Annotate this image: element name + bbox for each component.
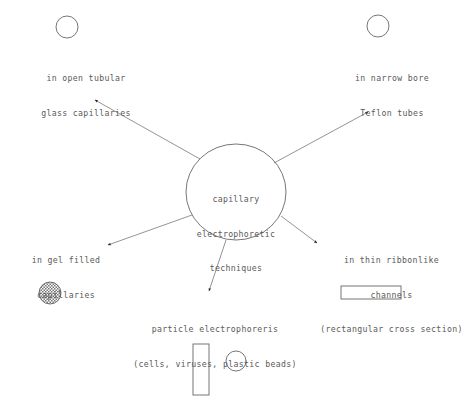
branch-label-open-tubular-line-2: glass capillaries [16, 108, 156, 120]
diagram-canvas: capillary electrophoretic techniques in … [0, 0, 465, 413]
branch-label-narrow-bore: in narrow bore Teflon tubes [324, 50, 460, 142]
branch-label-open-tubular-line-1: in open tubular [16, 73, 156, 85]
branch-label-ribbonlike-line-1: in thin ribbonlike [318, 255, 465, 267]
shape-open-circle-top-left [56, 16, 78, 38]
branch-label-ribbonlike-line-3: (rectangular cross section) [318, 324, 465, 336]
branch-label-particle-line-1: particle electrophoreris [118, 324, 312, 336]
branch-label-ribbonlike: in thin ribbonlike channels (rectangular… [318, 232, 465, 359]
branch-label-gel-filled-line-2: capillaries [8, 290, 124, 302]
branch-label-narrow-bore-line-2: Teflon tubes [324, 108, 460, 120]
arrow-to-ribbonlike [281, 216, 317, 243]
branch-label-open-tubular: in open tubular glass capillaries [16, 50, 156, 142]
center-node-label-line-1: capillary [186, 194, 286, 206]
center-node-label: capillary electrophoretic techniques [186, 171, 286, 298]
branch-label-gel-filled-line-1: in gel filled [8, 255, 124, 267]
branch-label-particle-electrophoresis: particle electrophoreris (cells, viruses… [118, 301, 312, 393]
branch-label-ribbonlike-line-2: channels [318, 290, 465, 302]
center-node-label-line-3: techniques [186, 263, 286, 275]
center-node-label-line-2: electrophoretic [186, 229, 286, 241]
branch-label-particle-line-2: (cells, viruses, plastic beads) [118, 359, 312, 371]
branch-label-gel-filled: in gel filled capillaries [8, 232, 124, 324]
branch-label-narrow-bore-line-1: in narrow bore [324, 73, 460, 85]
shape-open-circle-top-right [367, 15, 389, 37]
